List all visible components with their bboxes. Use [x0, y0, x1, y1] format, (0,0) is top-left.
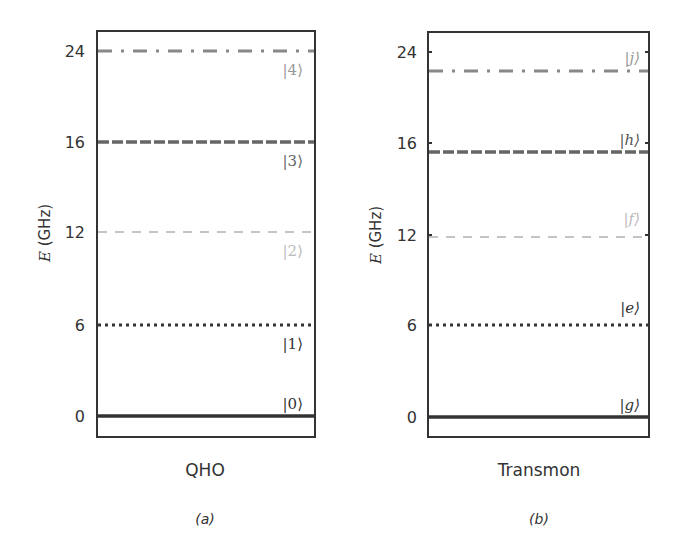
- ket-label-j: |j⟩: [624, 49, 640, 67]
- ket-label-e: |e⟩: [620, 299, 640, 317]
- ket-label-4: |4⟩: [283, 61, 303, 79]
- ket-label-g: |g⟩: [619, 396, 640, 414]
- ket-label-h: |h⟩: [619, 131, 640, 149]
- panel-caption: (b): [529, 511, 549, 527]
- tick-label: 6: [75, 316, 85, 335]
- x-axis-label: Transmon: [497, 460, 581, 480]
- tick-label: 24: [397, 43, 417, 62]
- ket-label-1: |1⟩: [283, 335, 303, 353]
- y-axis-label: E (GHz): [367, 206, 385, 265]
- panel-a-frame: [97, 31, 315, 437]
- energy-level-figure: 24 16 12 6 0 E (GHz) |4⟩ |3⟩ |2⟩ |1⟩ |0⟩…: [0, 0, 674, 553]
- tick-label: 6: [407, 316, 417, 335]
- ket-label-0: |0⟩: [283, 395, 303, 413]
- ket-label-3: |3⟩: [283, 152, 303, 170]
- panel-caption: (a): [195, 511, 215, 527]
- tick-marks: [428, 52, 649, 235]
- ket-label-2: |2⟩: [283, 242, 303, 260]
- tick-label: 0: [407, 408, 417, 427]
- tick-label: 0: [75, 407, 85, 426]
- panel-a: 24 16 12 6 0 E (GHz) |4⟩ |3⟩ |2⟩ |1⟩ |0⟩…: [36, 31, 315, 527]
- ket-label-f: |f⟩: [624, 210, 640, 228]
- x-axis-label: QHO: [185, 460, 225, 480]
- tick-label: 24: [65, 42, 85, 61]
- tick-label: 16: [65, 133, 85, 152]
- panel-b: 24 16 12 6 0 E (GHz) |j⟩ |h⟩ |f⟩ |e⟩ |g⟩…: [367, 32, 649, 527]
- panel-b-frame: [428, 32, 649, 437]
- tick-label: 16: [397, 134, 417, 153]
- tick-label: 12: [65, 223, 85, 242]
- y-axis-label: E (GHz): [36, 204, 54, 263]
- tick-label: 12: [397, 226, 417, 245]
